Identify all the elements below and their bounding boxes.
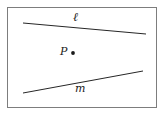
point-p-dot <box>71 51 75 55</box>
geometry-figure: ℓ m P <box>0 0 165 116</box>
line-label-l: ℓ <box>73 11 78 23</box>
figure-drawing-canvas <box>0 0 165 116</box>
point-label-p: P <box>60 46 67 57</box>
line-l <box>23 23 146 34</box>
line-label-m: m <box>75 83 85 94</box>
